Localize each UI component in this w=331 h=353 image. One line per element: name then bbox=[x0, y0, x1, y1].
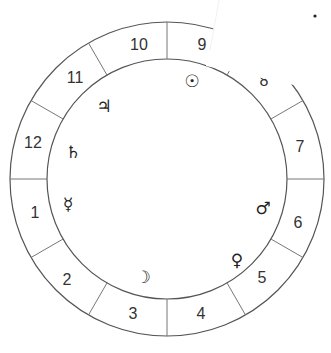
jupiter-icon: ♃ bbox=[96, 96, 111, 116]
house-number-3: 3 bbox=[129, 305, 138, 322]
planet-glyphs: ☉♃♄☿☽♀♂ bbox=[63, 71, 271, 287]
house-number-10: 10 bbox=[130, 36, 148, 53]
house-number-9: 9 bbox=[198, 36, 207, 53]
venus-icon: ♀ bbox=[231, 250, 243, 270]
house-divider bbox=[31, 239, 63, 258]
mars-icon: ♂ bbox=[255, 198, 270, 218]
dot-marker bbox=[313, 14, 316, 17]
house-divider bbox=[271, 101, 303, 120]
house-divider bbox=[271, 239, 303, 258]
house-number-2: 2 bbox=[63, 271, 72, 288]
saturn-icon: ♄ bbox=[65, 142, 80, 162]
house-number-7: 7 bbox=[296, 138, 305, 155]
sun-icon: ☉ bbox=[184, 71, 199, 91]
house-divider bbox=[227, 283, 246, 315]
mercury-icon: ☿ bbox=[63, 194, 73, 214]
house-number-12: 12 bbox=[24, 134, 42, 151]
house-divider bbox=[89, 43, 108, 75]
house-number-6: 6 bbox=[294, 214, 303, 231]
house-number-1: 1 bbox=[31, 204, 40, 221]
house-wheel-chart: 123456789101112 ☉♃♄☿☽♀♂ bbox=[0, 0, 331, 353]
house-labels: 123456789101112 bbox=[24, 36, 304, 322]
house-number-4: 4 bbox=[197, 305, 206, 322]
house-number-11: 11 bbox=[67, 69, 84, 86]
occluding-wedge bbox=[206, 0, 331, 93]
moon-icon: ☽ bbox=[135, 267, 150, 287]
inner-ring bbox=[47, 59, 287, 299]
house-divider bbox=[31, 101, 63, 120]
house-number-5: 5 bbox=[258, 269, 267, 286]
house-divider bbox=[89, 283, 108, 315]
